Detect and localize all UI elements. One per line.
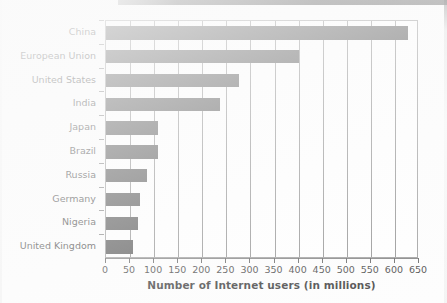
y-axis-tick (99, 115, 104, 116)
x-axis-tick (394, 258, 395, 263)
x-axis-tick-label: 550 (361, 264, 379, 275)
bar (106, 26, 408, 40)
x-axis-tick (129, 258, 130, 263)
x-axis-tick-label: 50 (123, 264, 135, 275)
y-axis-category-labels: ChinaEuropean UnionUnited StatesIndiaJap… (0, 20, 103, 258)
x-axis-tick-labels: 050100150200250300350400450500550600650 (0, 264, 447, 278)
internet-users-bar-chart: ChinaEuropean UnionUnited StatesIndiaJap… (0, 0, 447, 303)
y-axis-tick (99, 234, 104, 235)
x-axis-tick (249, 258, 250, 263)
y-axis-label: China (69, 27, 96, 37)
y-axis-tick (99, 163, 104, 164)
x-axis-tick-label: 650 (409, 264, 427, 275)
y-axis-tick (99, 210, 104, 211)
bar-row (106, 217, 417, 231)
x-axis-tick (346, 258, 347, 263)
x-axis-tick (153, 258, 154, 263)
bar-row (106, 50, 417, 64)
bar (106, 169, 147, 183)
y-axis-label: Japan (70, 122, 97, 132)
y-axis-label: European Union (20, 51, 96, 61)
x-axis-tick (418, 258, 419, 263)
plot-area (105, 20, 418, 258)
bar-row (106, 26, 417, 40)
x-axis-tick (370, 258, 371, 263)
x-axis-tick-label: 600 (385, 264, 403, 275)
bar (106, 50, 299, 64)
y-axis-tick (99, 187, 104, 188)
bar (106, 98, 220, 112)
y-axis-label: Nigeria (62, 217, 96, 227)
x-axis-tick-label: 250 (216, 264, 234, 275)
x-axis-tick (322, 258, 323, 263)
y-axis-label: India (73, 98, 96, 108)
bar (106, 193, 140, 207)
x-axis-tick-label: 200 (192, 264, 210, 275)
y-axis-label: United Kingdom (20, 241, 96, 251)
x-axis-tick (105, 258, 106, 263)
x-axis-tick-label: 400 (289, 264, 307, 275)
y-axis-tick (99, 68, 104, 69)
bar-row (106, 145, 417, 159)
bar-row (106, 121, 417, 135)
bar-row (106, 74, 417, 88)
x-axis-tick-label: 500 (337, 264, 355, 275)
x-axis-tick-label: 150 (168, 264, 186, 275)
y-axis-label: Germany (52, 194, 96, 204)
bar-row (106, 193, 417, 207)
bar (106, 121, 158, 135)
bar-row (106, 98, 417, 112)
y-axis-tick (99, 91, 104, 92)
x-axis-tick-label: 0 (102, 264, 108, 275)
bar-row (106, 169, 417, 183)
bar (106, 145, 158, 159)
x-axis-tick (298, 258, 299, 263)
y-axis-tick (99, 20, 104, 21)
x-axis-tick (225, 258, 226, 263)
bar (106, 240, 133, 254)
y-axis-tick (99, 139, 104, 140)
bar (106, 217, 138, 231)
x-axis-tick-label: 350 (264, 264, 282, 275)
bar-row (106, 240, 417, 254)
x-axis-tick (201, 258, 202, 263)
y-axis-label: Brazil (69, 146, 96, 156)
x-axis-tick (177, 258, 178, 263)
x-axis-tick-label: 100 (144, 264, 162, 275)
y-axis-tick (99, 44, 104, 45)
bar-series (106, 21, 417, 257)
x-axis-tick (274, 258, 275, 263)
x-axis-tick-label: 450 (313, 264, 331, 275)
bar (106, 74, 239, 88)
chart-page: ChinaEuropean UnionUnited StatesIndiaJap… (0, 0, 447, 303)
x-axis-tick-label: 300 (240, 264, 258, 275)
y-axis-label: United States (32, 75, 96, 85)
y-axis-label: Russia (65, 170, 96, 180)
x-axis-title: Number of Internet users (in millions) (105, 279, 418, 291)
